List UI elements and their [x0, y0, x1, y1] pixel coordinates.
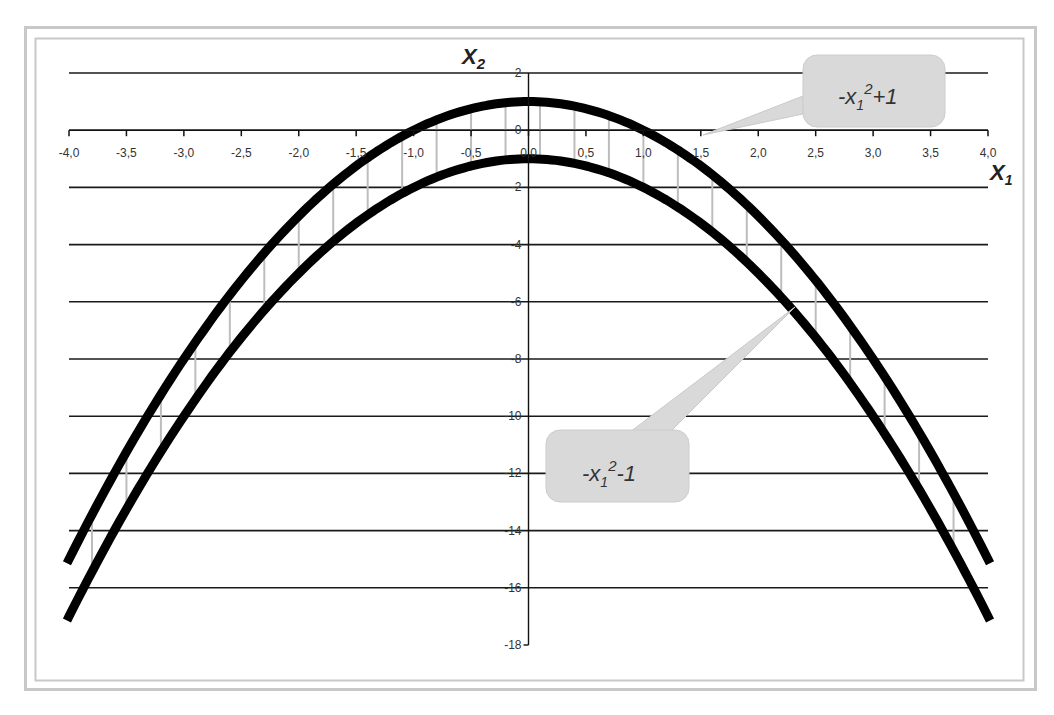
- y-tick-label: -12: [504, 466, 522, 480]
- x-tick-label: -4,0: [59, 146, 80, 160]
- y-tick-label: 2: [515, 66, 522, 80]
- y-tick-label: -6: [511, 295, 522, 309]
- x-tick-label: 2,5: [807, 146, 824, 160]
- x-tick-label: -3,5: [116, 146, 137, 160]
- x-tick-label: 3,5: [922, 146, 939, 160]
- x-tick-label: -1,5: [346, 146, 367, 160]
- x-tick-label: 2,0: [750, 146, 767, 160]
- y-tick-label: -10: [504, 409, 522, 423]
- x-tick-label: 3,0: [865, 146, 882, 160]
- x-tick-label: 1,5: [692, 146, 709, 160]
- x-tick-label: 0,5: [578, 146, 595, 160]
- x-tick-label: -3,0: [174, 146, 195, 160]
- x-tick-label: -1,0: [403, 146, 424, 160]
- y-tick-label: -2: [511, 180, 522, 194]
- y-tick-label: -4: [511, 238, 522, 252]
- y-tick-label: -14: [504, 524, 522, 538]
- chart-canvas: 20-2-4-6-8-10-12-14-16-18 -4,0-3,5-3,0-2…: [0, 0, 1054, 715]
- x-tick-label: 4,0: [980, 146, 997, 160]
- y-tick-label: -18: [504, 638, 522, 652]
- y-tick-label: -16: [504, 581, 522, 595]
- x-tick-label: 1,0: [635, 146, 652, 160]
- x-tick-label: 0,0: [520, 146, 537, 160]
- x-tick-label: -2,5: [231, 146, 252, 160]
- x-tick-label: -2,0: [288, 146, 309, 160]
- y-tick-label: -8: [511, 352, 522, 366]
- y-tick-label: 0: [515, 123, 522, 137]
- x-tick-label: -0,5: [461, 146, 482, 160]
